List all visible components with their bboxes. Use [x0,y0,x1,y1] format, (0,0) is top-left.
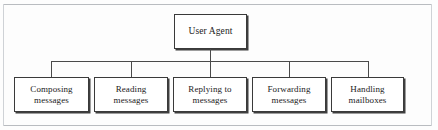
connector-root-stem [210,49,211,61]
node-replying-to-messages[interactable]: Replying to messages [173,77,247,112]
node-composing-messages[interactable]: Composing messages [14,77,89,112]
connector-drop-4 [368,61,369,77]
leaf-3-line-2: messages [268,95,311,106]
leaf-0-line-2: messages [30,95,72,106]
node-handling-mailboxes[interactable]: Handling mailboxes [331,77,404,112]
node-label-replying-to-messages: Replying to messages [188,84,231,105]
hierarchy-diagram: User Agent Composing messages Reading me… [0,0,438,130]
connector-drop-2 [210,61,211,77]
node-label-forwarding-messages: Forwarding messages [268,84,311,105]
leaf-2-line-1: Replying to [188,84,231,94]
connector-drop-0 [51,61,52,77]
page-edge-left [3,4,4,126]
leaf-2-line-2: messages [188,95,231,106]
page-rule-top [3,4,432,5]
leaf-4-line-1: Handling [350,84,384,94]
node-user-agent[interactable]: User Agent [174,14,247,49]
leaf-4-line-2: mailboxes [349,95,387,106]
page-edge-right [431,4,432,126]
leaf-3-line-1: Forwarding [268,84,311,94]
connector-drop-1 [131,61,132,77]
node-label-user-agent: User Agent [188,26,232,37]
leaf-0-line-1: Composing [30,84,72,94]
leaf-1-line-1: Reading [116,84,147,94]
node-label-reading-messages: Reading messages [114,84,149,105]
connector-drop-3 [289,61,290,77]
node-label-handling-mailboxes: Handling mailboxes [349,84,387,105]
node-label-composing-messages: Composing messages [30,84,72,105]
node-forwarding-messages[interactable]: Forwarding messages [252,77,326,112]
leaf-1-line-2: messages [114,95,149,106]
page-rule-bottom [3,125,432,126]
node-reading-messages[interactable]: Reading messages [94,77,168,112]
